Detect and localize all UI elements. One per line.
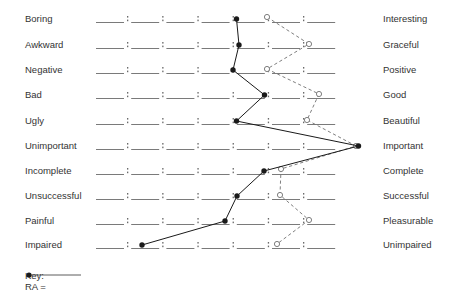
scale-separator-colon — [303, 67, 304, 69]
scale-separator-colon — [127, 16, 128, 18]
scale-separator-colon — [233, 246, 234, 248]
scale-separator-colon — [233, 46, 234, 48]
scale-separator-colon — [268, 218, 269, 220]
scale-separator-colon — [162, 96, 163, 98]
scale-separator-colon — [162, 46, 163, 48]
scale-separator-colon — [197, 67, 198, 69]
scale-separator-colon — [162, 20, 163, 22]
scale-separator-colon — [127, 96, 128, 98]
filled-circle-marker[interactable] — [236, 42, 241, 47]
open-circle-marker[interactable] — [304, 117, 309, 122]
scale-separator-colon — [127, 143, 128, 145]
key-entry-label: RA = — [25, 281, 46, 292]
scale-separator-colon — [162, 92, 163, 94]
scale-separator-colon — [127, 118, 128, 120]
filled-circle-marker[interactable] — [262, 92, 267, 97]
filled-circle-marker[interactable] — [234, 16, 239, 21]
scale-separator-colon — [233, 222, 234, 224]
open-circle-marker[interactable] — [316, 91, 321, 96]
scale-separator-colon — [268, 222, 269, 224]
scale-separator-colon — [303, 246, 304, 248]
scale-separator-colon — [197, 218, 198, 220]
scale-separator-colon — [127, 172, 128, 174]
scale-separator-colon — [162, 42, 163, 44]
scale-separator-colon — [127, 71, 128, 73]
scale-separator-colon — [162, 242, 163, 244]
scale-separator-colon — [303, 143, 304, 145]
filled-circle-marker[interactable] — [222, 218, 227, 223]
scale-separator-colon — [233, 147, 234, 149]
scale-separator-colon — [162, 143, 163, 145]
scale-separator-colon — [268, 42, 269, 44]
scale-separator-colon — [303, 20, 304, 22]
scale-separator-colon — [197, 168, 198, 170]
filled-circle-marker[interactable] — [234, 193, 239, 198]
scale-separator-colon — [197, 242, 198, 244]
scale-separator-colon — [197, 118, 198, 120]
scale-separator-colon — [127, 222, 128, 224]
open-circle-marker[interactable] — [306, 41, 311, 46]
scale-separator-colon — [162, 222, 163, 224]
scale-separator-colon — [127, 67, 128, 69]
dashed-series-line — [267, 17, 356, 244]
filled-circle-marker[interactable] — [230, 67, 235, 72]
scale-separator-colon — [127, 122, 128, 124]
scale-separator-colon — [233, 193, 234, 195]
scale-separator-colon — [303, 197, 304, 199]
semantic-differential-chart: Boring Awkward Negative Bad Ugly Unimpor… — [0, 0, 458, 295]
scale-separator-colon — [197, 16, 198, 18]
scale-separator-colon — [233, 20, 234, 22]
scale-separator-colon — [197, 46, 198, 48]
scale-separator-colon — [268, 246, 269, 248]
filled-circle-marker[interactable] — [261, 168, 266, 173]
scale-separator-colon — [127, 246, 128, 248]
open-circle-marker[interactable] — [274, 241, 279, 246]
scale-separator-colon — [127, 197, 128, 199]
series-layer — [139, 14, 361, 247]
chart-key: Key: RA = — [25, 270, 48, 292]
scale-separator-colon — [268, 197, 269, 199]
scale-separator-colon — [127, 147, 128, 149]
scale-separator-colon — [197, 197, 198, 199]
scale-separator-colon — [197, 143, 198, 145]
scale-separator-colon — [268, 172, 269, 174]
scale-separator-colon — [197, 42, 198, 44]
scale-separator-colon — [197, 222, 198, 224]
scale-separator-colon — [197, 96, 198, 98]
scale-separator-colon — [268, 143, 269, 145]
open-circle-marker[interactable] — [264, 14, 269, 19]
filled-circle-marker[interactable] — [356, 143, 361, 148]
open-circle-marker[interactable] — [277, 192, 282, 197]
scale-separator-colon — [162, 246, 163, 248]
scale-separator-colon — [303, 71, 304, 73]
scale-separator-colon — [197, 172, 198, 174]
scale-separator-colon — [303, 242, 304, 244]
scale-separator-colon — [268, 122, 269, 124]
scale-separator-colon — [162, 71, 163, 73]
scale-separator-colon — [233, 168, 234, 170]
scale-separator-colon — [268, 242, 269, 244]
scale-separator-colon — [197, 147, 198, 149]
scale-separator-colon — [127, 92, 128, 94]
scale-separator-colon — [268, 92, 269, 94]
scale-separator-colon — [303, 222, 304, 224]
scale-separator-colon — [162, 67, 163, 69]
scale-separator-colon — [303, 42, 304, 44]
scale-separator-colon — [233, 118, 234, 120]
open-circle-marker[interactable] — [306, 217, 311, 222]
scale-rows — [96, 16, 335, 249]
filled-circle-marker[interactable] — [139, 242, 144, 247]
open-circle-marker[interactable] — [264, 66, 269, 71]
scale-separator-colon — [268, 46, 269, 48]
scale-separator-colon — [197, 20, 198, 22]
scale-separator-colon — [233, 143, 234, 145]
filled-circle-marker[interactable] — [234, 118, 239, 123]
scale-separator-colon — [233, 172, 234, 174]
scale-separator-colon — [127, 242, 128, 244]
scale-separator-colon — [303, 16, 304, 18]
scale-separator-colon — [303, 92, 304, 94]
scale-separator-colon — [303, 147, 304, 149]
scale-separator-colon — [233, 122, 234, 124]
scale-separator-colon — [162, 218, 163, 220]
scale-separator-colon — [268, 147, 269, 149]
